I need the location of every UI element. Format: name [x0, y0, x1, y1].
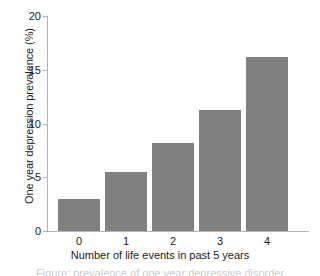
caption-cropped: Figure: prevalence of one year depressiv…: [0, 268, 320, 276]
y-axis-spine: [47, 16, 48, 231]
y-tick-label: 0: [35, 225, 41, 237]
bar: [246, 57, 288, 231]
bar: [105, 172, 147, 231]
y-tick-mark: [43, 16, 47, 17]
y-tick-mark: [43, 231, 47, 232]
x-axis-spine: [47, 231, 309, 232]
y-tick-mark: [43, 124, 47, 125]
x-tick-label: 1: [123, 235, 129, 247]
bar: [152, 143, 194, 231]
x-tick-label: 3: [217, 235, 223, 247]
figure: One year depression prevalence (%) 0 5 1…: [0, 0, 320, 276]
y-axis-label: One year depression prevalence (%): [20, 0, 38, 232]
x-tick-label: 4: [264, 235, 270, 247]
y-tick-label: 15: [29, 64, 41, 76]
x-tick-label: 2: [170, 235, 176, 247]
y-tick-label: 10: [29, 118, 41, 130]
y-tick-label: 20: [29, 10, 41, 22]
x-axis-label: Number of life events in past 5 years: [0, 249, 320, 261]
y-tick-label: 5: [35, 171, 41, 183]
bar: [58, 199, 100, 231]
x-tick-label: 0: [76, 235, 82, 247]
bar: [199, 110, 241, 231]
y-tick-mark: [43, 177, 47, 178]
y-tick-mark: [43, 70, 47, 71]
plot-area: 0 5 10 15 20 0 1 2 3 4: [47, 16, 309, 231]
caption-text: Figure: prevalence of one year depressiv…: [0, 268, 320, 276]
